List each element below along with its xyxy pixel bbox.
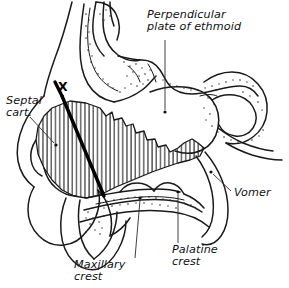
label-septal-cartilage: Septal cart. [6, 94, 43, 119]
septal-label-line2: cart. [6, 106, 32, 119]
label-maxillary-crest: Maxillary crest [74, 258, 126, 283]
palatine-label-line2: crest [172, 255, 201, 268]
incision-marker-x: X [58, 79, 68, 94]
label-vomer: Vomer [234, 186, 272, 199]
maxillary-label-line2: crest [74, 270, 103, 283]
septal-cartilage-region [36, 101, 204, 198]
label-palatine-crest: Palatine crest [172, 243, 218, 268]
sphenoid-region [196, 72, 282, 245]
septum-diagram: X Perpendicular plate of ethmoid Septal … [0, 0, 289, 288]
ethmoid-label-line2: plate of ethmoid [146, 20, 242, 33]
vomer-label: Vomer [234, 186, 272, 199]
label-perpendicular-plate-of-ethmoid: Perpendicular plate of ethmoid [146, 8, 242, 33]
anatomical-figure: X Perpendicular plate of ethmoid Septal … [0, 0, 289, 288]
